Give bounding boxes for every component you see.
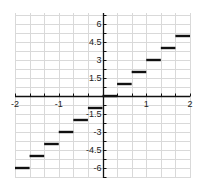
step-segments [15,36,190,168]
x-tick-label: -2 [11,99,19,109]
step-function-chart: -2-112 64.531.5-1.5-3-4.5-6 [0,0,198,189]
x-tick-label: 2 [187,99,192,109]
y-tick-label: 1.5 [89,73,102,83]
y-tick-label: -1.5 [86,109,102,119]
y-tick-label: -4.5 [86,145,102,155]
y-tick-label: 6 [96,19,101,29]
x-tick-label: 1 [144,99,149,109]
y-tick-label: 4.5 [89,37,102,47]
y-tick-label: -3 [93,127,101,137]
y-tick-label: -6 [93,163,101,173]
x-tick-label: -1 [55,99,63,109]
y-tick-label: 3 [96,55,101,65]
